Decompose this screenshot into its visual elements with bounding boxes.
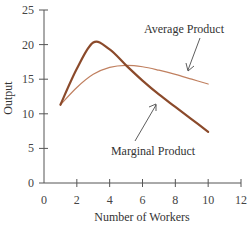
y-tick-label: 10	[22, 107, 34, 121]
chart: 0510152025 024681012 Output Number of Wo…	[0, 0, 248, 229]
y-axis: 0510152025	[22, 3, 48, 190]
y-tick-label: 0	[28, 176, 34, 190]
x-tick-label: 0	[41, 193, 47, 207]
x-axis: 024681012	[41, 179, 247, 207]
average-product-label: Average Product	[144, 22, 225, 36]
average-product-line	[60, 65, 208, 104]
x-tick-label: 10	[202, 193, 214, 207]
series-group	[60, 42, 208, 132]
x-tick-label: 8	[172, 193, 178, 207]
y-tick-label: 20	[22, 38, 34, 52]
x-tick-label: 12	[235, 193, 247, 207]
y-tick-label: 25	[22, 3, 34, 17]
x-tick-label: 4	[107, 193, 113, 207]
marginal-product-label: Marginal Product	[111, 144, 196, 158]
x-tick-label: 6	[140, 193, 146, 207]
marginal-product-arrow-icon	[135, 104, 156, 141]
marginal-product-line	[60, 42, 208, 132]
average-product-arrow-icon	[186, 38, 200, 71]
x-tick-label: 2	[74, 193, 80, 207]
x-axis-label: Number of Workers	[94, 210, 190, 224]
y-tick-label: 15	[22, 72, 34, 86]
y-axis-label: Output	[1, 81, 15, 115]
y-tick-label: 5	[28, 141, 34, 155]
